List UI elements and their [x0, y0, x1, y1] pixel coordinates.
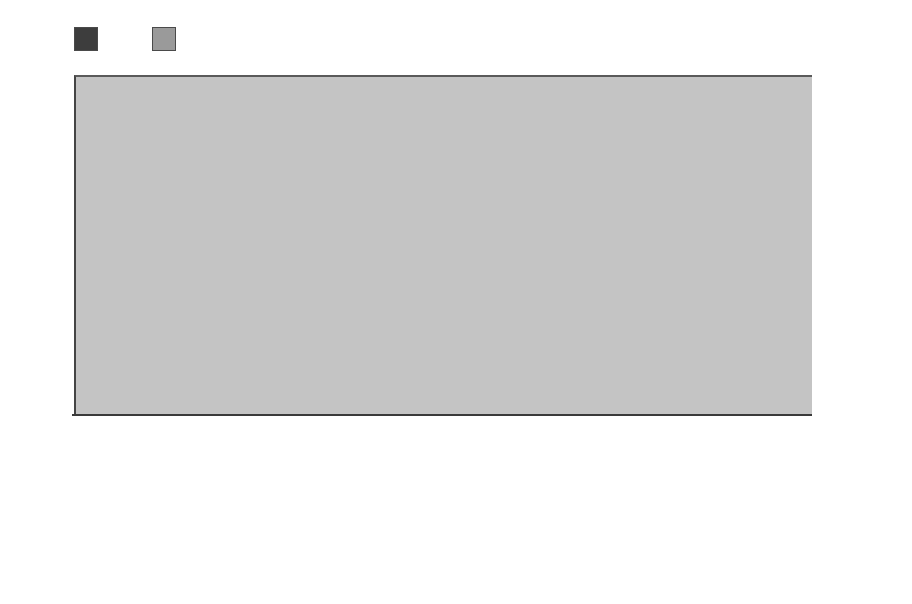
chart-figure	[0, 0, 912, 604]
legend-entry-no-visits	[152, 27, 188, 51]
plot-area	[74, 75, 812, 416]
legend-swatch-emergency-dept-visits	[74, 27, 98, 51]
x-axis-line	[72, 414, 812, 416]
legend-swatch-no-visits	[152, 27, 176, 51]
chart-legend	[74, 22, 188, 56]
legend-entry-emergency-dept-visits	[74, 27, 110, 51]
